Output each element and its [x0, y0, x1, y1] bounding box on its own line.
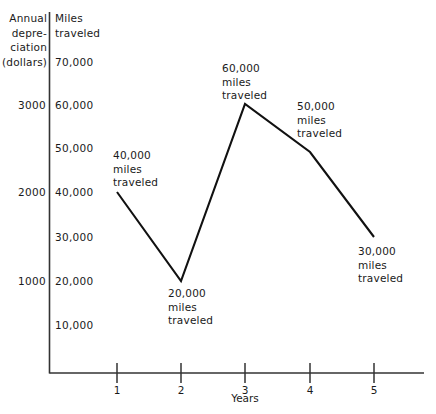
y-tick-label-miles-10000: 10,000: [55, 319, 94, 331]
annotation-point-4: 50,000 miles traveled: [297, 100, 342, 141]
y-axis-title-miles-line-1: Miles: [55, 11, 125, 26]
annotation-point-1: 40,000 miles traveled: [113, 149, 158, 190]
y-axis-title-dollars: Annual depre- ciation (dollars): [2, 11, 47, 69]
y-tick-label-miles-30000: 30,000: [55, 231, 94, 243]
y-tick-label-dollars-2000: 2000: [1, 186, 46, 198]
y-tick-label-miles-20000: 20,000: [55, 275, 94, 287]
x-tick-label-1: 1: [107, 384, 127, 396]
annotation-point-5: 30,000 miles traveled: [358, 245, 403, 286]
y-tick-label-dollars-1000: 1000: [1, 275, 46, 287]
annotation-point-2: 20,000 miles traveled: [168, 287, 213, 328]
x-axis-title: Years: [205, 392, 285, 404]
y-axis-title-dollars-line-2: depre-: [2, 26, 47, 41]
y-tick-label-miles-70000: 70,000: [55, 56, 94, 68]
x-tick-label-2: 2: [171, 384, 191, 396]
y-axis-title-dollars-line-1: Annual: [2, 11, 47, 26]
x-tick-label-4: 4: [300, 384, 320, 396]
y-tick-label-dollars-3000: 3000: [1, 99, 46, 111]
y-tick-label-miles-50000: 50,000: [55, 142, 94, 154]
annotation-point-3: 60,000 miles traveled: [222, 62, 267, 103]
y-axis-title-miles-line-2: traveled: [55, 26, 125, 41]
y-tick-label-miles-40000: 40,000: [55, 186, 94, 198]
x-tick-label-5: 5: [364, 384, 384, 396]
y-axis-title-dollars-line-3: ciation: [2, 40, 47, 55]
y-tick-label-miles-60000: 60,000: [55, 99, 94, 111]
y-axis-title-miles: Miles traveled: [55, 11, 125, 40]
y-axis-title-dollars-line-4: (dollars): [2, 55, 47, 70]
